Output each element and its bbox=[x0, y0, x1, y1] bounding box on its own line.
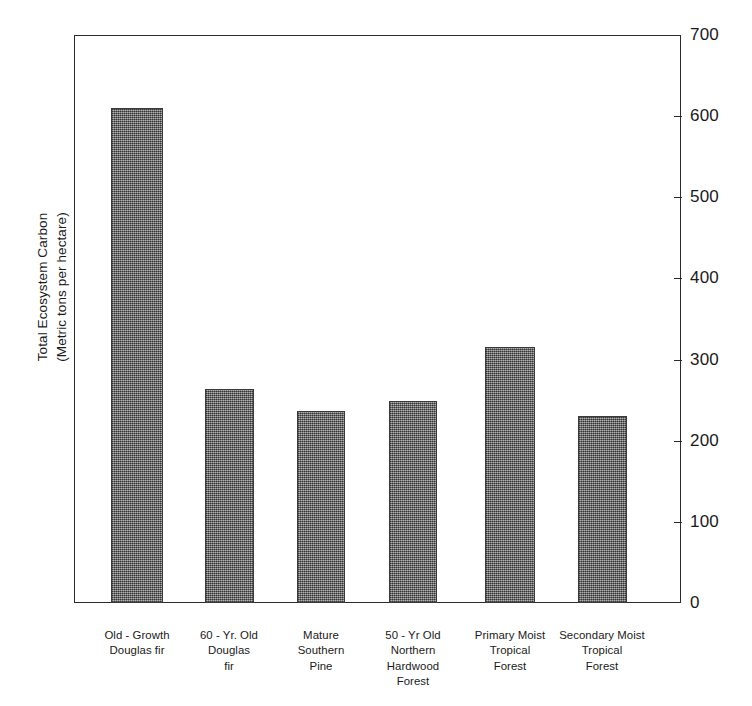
y-tick-label: 100 bbox=[690, 513, 719, 530]
bar-chart: Total Ecosystem Carbon (Metric tons per … bbox=[0, 0, 752, 706]
bar bbox=[205, 389, 254, 603]
y-tick-mark bbox=[674, 116, 682, 117]
x-axis-label: Secondary Moist Tropical Forest bbox=[537, 628, 667, 674]
y-tick-mark bbox=[674, 522, 682, 523]
y-tick-mark bbox=[674, 360, 682, 361]
y-tick-label: 600 bbox=[690, 107, 719, 124]
bar bbox=[389, 401, 437, 603]
bar bbox=[485, 347, 535, 603]
bars-layer bbox=[74, 35, 681, 603]
y-tick-label: 500 bbox=[690, 188, 719, 205]
y-axis-title: Total Ecosystem Carbon (Metric tons per … bbox=[33, 167, 71, 407]
bar bbox=[297, 411, 345, 603]
y-tick-label: 0 bbox=[690, 594, 700, 611]
y-tick-label: 700 bbox=[690, 26, 719, 43]
y-tick-mark bbox=[674, 197, 682, 198]
y-tick-label: 400 bbox=[690, 269, 719, 286]
y-tick-label: 300 bbox=[690, 351, 719, 368]
y-tick-label: 200 bbox=[690, 432, 719, 449]
bar bbox=[578, 416, 627, 603]
y-tick-mark bbox=[674, 278, 682, 279]
y-tick-mark bbox=[674, 441, 682, 442]
bar bbox=[111, 108, 163, 603]
